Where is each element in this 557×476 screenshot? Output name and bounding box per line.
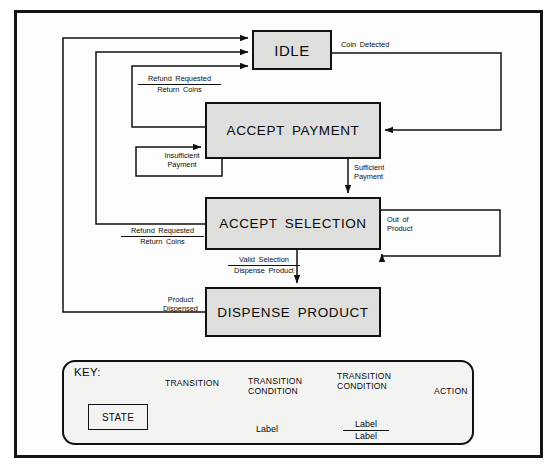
key-caption-transition-condition-line1: TRANSITION [248,376,302,386]
figure-page: IDLE ACCEPT PAYMENT ACCEPT SELECTION DIS… [0,0,557,476]
figure-caption [0,464,557,476]
label-refund-requested-payment: Refund Requested [138,74,221,85]
label-product-dispensed: Dispensed [158,304,203,314]
key-caption-transition-condition2-line2: CONDITION [337,381,387,391]
key-sample-label-1: Label [256,424,278,434]
state-dispense-product[interactable]: DISPENSE PRODUCT [205,287,381,337]
key-title: KEY: [74,366,101,378]
state-accept-selection[interactable]: ACCEPT SELECTION [205,197,381,250]
state-dispense-product-label: DISPENSE PRODUCT [217,305,368,320]
label-return-coins-payment: Return Coins [138,85,221,95]
key-caption-transition-condition-line2: CONDITION [248,386,298,396]
key-caption-transition-condition2-line1: TRANSITION [337,371,391,381]
state-idle-label: IDLE [274,42,310,59]
label-dispense-product: Dispense Product [225,266,303,276]
label-sufficient-payment: Payment [354,172,383,182]
key-caption-action: ACTION [434,386,468,396]
label-out-of-product: Product [387,224,412,234]
key-sample-label-2: Label [343,419,389,431]
label-insufficient-payment: Payment [156,160,208,170]
key-caption-transition: TRANSITION [165,378,219,388]
label-coin-detected: Coin Detected [341,40,389,50]
state-accept-payment-label: ACCEPT PAYMENT [227,123,360,138]
label-return-coins-selection: Return Coins [121,237,204,247]
state-accept-selection-label: ACCEPT SELECTION [219,216,366,231]
label-valid-selection: Valid Selection [228,255,300,266]
state-accept-payment[interactable]: ACCEPT PAYMENT [205,102,381,159]
label-refund-requested-selection: Refund Requested [121,226,204,237]
state-idle[interactable]: IDLE [252,30,332,70]
key-state-sample: STATE [88,404,148,430]
key-sample-label-3: Label [343,431,389,441]
key-state-sample-label: STATE [102,412,134,423]
